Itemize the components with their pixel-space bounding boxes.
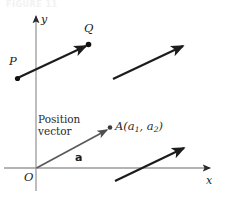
x-axis-label: x xyxy=(206,175,212,186)
point-label-a-coordinates: A(a1, a2) xyxy=(115,121,163,133)
point-a-separator: , xyxy=(139,119,143,133)
point-a-subscript-1: 1 xyxy=(135,125,140,134)
point-a-component-2: a xyxy=(147,119,154,133)
point-a-dot xyxy=(108,125,113,130)
position-vector-annotation-line1: Position xyxy=(38,113,80,125)
point-a-subscript-2: 2 xyxy=(154,125,159,134)
point-label-q: Q xyxy=(84,23,93,35)
point-a-component-1: a xyxy=(128,119,135,133)
y-axis-label: y xyxy=(41,14,47,25)
point-a-paren-close: ) xyxy=(158,119,163,133)
pq-vector-arrow xyxy=(18,46,87,78)
point-q-dot xyxy=(86,42,92,48)
position-vector-annotation: Position vector xyxy=(38,114,80,136)
point-label-p: P xyxy=(9,56,17,68)
position-vector-annotation-line2: vector xyxy=(38,126,80,137)
diagram-canvas xyxy=(0,0,227,198)
vector-a-name-label: a xyxy=(75,152,82,163)
free-vector-upper-right-arrow xyxy=(113,46,183,79)
point-p-dot xyxy=(15,76,20,81)
origin-label: O xyxy=(24,172,33,184)
free-vector-lower-right-arrow xyxy=(115,148,184,181)
vector-diagram-figure: FIGURE 11 y x O P xyxy=(0,0,227,198)
